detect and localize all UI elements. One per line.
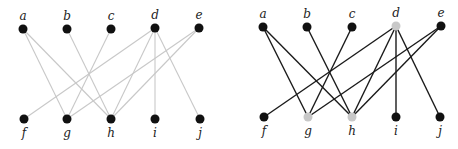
node-f (20, 115, 29, 124)
node-label-c: c (108, 9, 115, 23)
node-a (259, 23, 268, 32)
node-e (437, 22, 446, 31)
node-label-e: e (437, 6, 444, 20)
node-label-d: d (392, 6, 400, 20)
edge-a-g (263, 27, 308, 117)
node-b (303, 23, 312, 32)
edge-d-f (24, 28, 155, 119)
node-h (348, 113, 357, 122)
node-label-g: g (63, 126, 71, 140)
edge-a-h (263, 27, 352, 117)
node-b (63, 25, 72, 34)
node-label-c: c (349, 7, 356, 21)
node-label-i: i (153, 126, 157, 140)
bipartite-graph-diagram: abcdefghij abcdefghij (0, 0, 458, 149)
node-label-j: j (435, 124, 442, 138)
node-c (348, 23, 357, 32)
edge-e-g (67, 28, 199, 119)
edge-a-g (23, 29, 67, 119)
node-label-h: h (107, 126, 115, 140)
node-j (196, 115, 205, 124)
node-label-j: j (195, 126, 202, 140)
node-label-i: i (394, 124, 398, 138)
node-label-b: b (63, 9, 71, 23)
node-e (195, 24, 204, 33)
node-label-d: d (151, 8, 159, 22)
node-label-f: f (21, 126, 29, 140)
node-label-a: a (259, 7, 266, 21)
graph-right: abcdefghij (259, 6, 446, 138)
node-label-h: h (348, 124, 356, 138)
node-f (260, 113, 269, 122)
node-i (151, 115, 160, 124)
edge-d-j (155, 28, 200, 119)
node-a (19, 25, 28, 34)
node-label-g: g (304, 124, 312, 138)
node-label-b: b (303, 7, 311, 21)
node-d (392, 22, 401, 31)
edge-a-h (23, 29, 111, 119)
node-c (107, 25, 116, 34)
node-g (304, 113, 313, 122)
edge-d-j (396, 26, 440, 117)
node-label-f: f (261, 124, 269, 138)
node-j (436, 113, 445, 122)
node-h (107, 115, 116, 124)
graph-left: abcdefghij (19, 8, 205, 140)
node-d (151, 24, 160, 33)
edge-d-f (264, 26, 396, 117)
node-label-a: a (19, 9, 26, 23)
node-label-e: e (195, 8, 202, 22)
node-i (392, 113, 401, 122)
edge-e-g (308, 26, 441, 117)
node-g (63, 115, 72, 124)
